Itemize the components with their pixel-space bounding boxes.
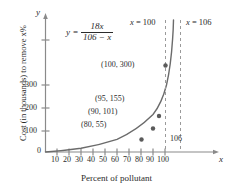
vline-value-106: 106 bbox=[199, 17, 212, 27]
asymptote-note-106: 106 bbox=[170, 135, 182, 143]
point-label-100-300: (100, 300) bbox=[101, 61, 134, 69]
equation-lhs: y bbox=[66, 27, 70, 37]
x-tick-label-60: 60 bbox=[111, 156, 119, 164]
data-point-90-101 bbox=[151, 126, 155, 130]
equation-equals: = bbox=[73, 27, 78, 37]
x-tick-label-20: 20 bbox=[63, 156, 71, 164]
point-label-95-155: (95, 155) bbox=[95, 95, 124, 103]
point-label-90-101: (90, 101) bbox=[88, 108, 117, 116]
data-point-95-155 bbox=[157, 114, 161, 118]
x-tick-label-10: 10 bbox=[51, 156, 59, 164]
vline-label-x-106: x = 106 bbox=[186, 18, 212, 27]
x-tick-label-80: 80 bbox=[135, 156, 143, 164]
vline-label-x-100: x = 100 bbox=[130, 18, 156, 27]
x-tick-label-30: 30 bbox=[75, 156, 83, 164]
origin-tick-label: 0 bbox=[37, 147, 41, 155]
data-point-80-55 bbox=[139, 137, 143, 141]
data-point-markers bbox=[139, 63, 167, 141]
y-axis-arrowhead bbox=[43, 13, 48, 19]
y-tick-label-200: 200 bbox=[25, 104, 37, 112]
y-tick-label-100: 100 bbox=[25, 127, 37, 135]
y-axis-variable: y bbox=[36, 8, 40, 17]
x-tick-label-100: 100 bbox=[157, 156, 169, 164]
point-label-80-55: (80, 55) bbox=[81, 121, 106, 129]
x-axis-title: Percent of pollutant bbox=[0, 174, 233, 183]
equation-fraction: 18x 106 − x bbox=[81, 22, 113, 43]
equation-numerator: 18x bbox=[89, 22, 106, 31]
equation-annotation: y = 18x 106 − x bbox=[66, 22, 113, 43]
vline-value-100: 100 bbox=[143, 17, 156, 27]
x-tick-label-50: 50 bbox=[99, 156, 107, 164]
y-tick-label-300: 300 bbox=[25, 81, 37, 89]
x-tick-label-40: 40 bbox=[87, 156, 95, 164]
x-axis-variable: x bbox=[219, 155, 223, 164]
x-tick-label-90: 90 bbox=[146, 156, 154, 164]
data-point-100-300 bbox=[163, 63, 167, 67]
cost-vs-pollutant-figure: Cost (in thousands) to remove x% y x 0 1… bbox=[0, 0, 233, 196]
x-tick-label-70: 70 bbox=[123, 156, 131, 164]
equation-denominator: 106 − x bbox=[81, 33, 113, 42]
